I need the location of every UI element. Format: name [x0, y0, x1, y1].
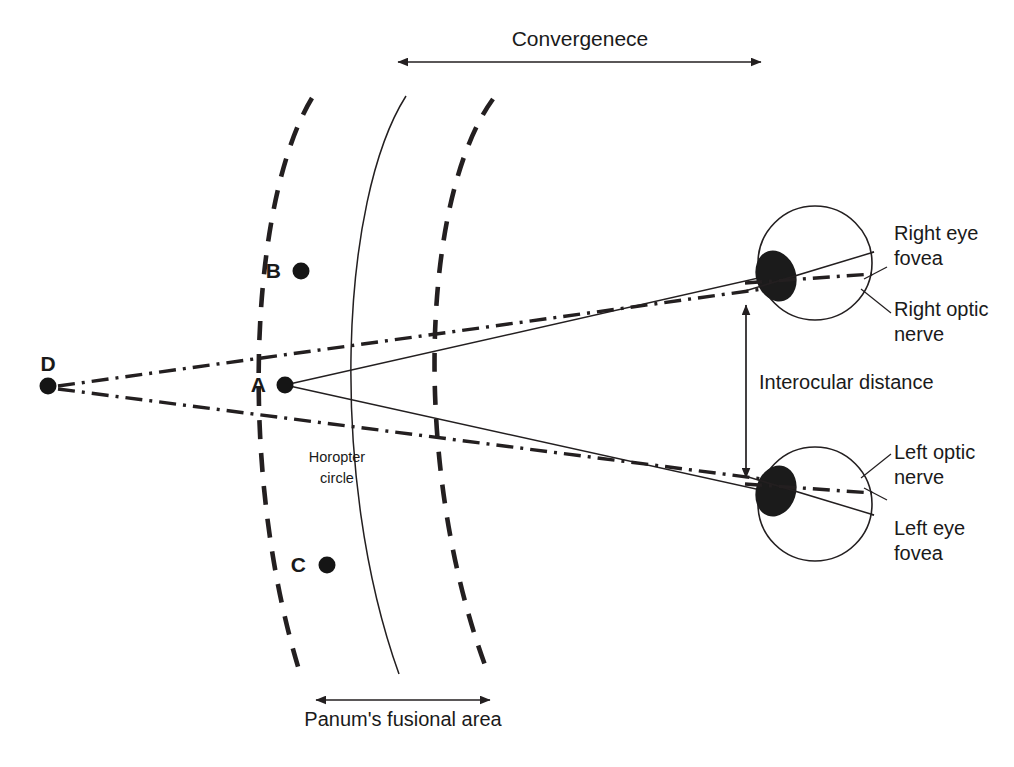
point-b-label: B	[266, 259, 281, 282]
convergence-dimension: Convergenece	[398, 27, 761, 62]
panum-dimension: Panum's fusional area	[304, 700, 502, 730]
point-a-label: A	[251, 373, 266, 396]
interocular-distance-label: Interocular distance	[759, 371, 934, 393]
left-eye-fovea-label-line2: fovea	[894, 542, 944, 564]
right-eye-fovea-label-line1: Right eye	[894, 222, 979, 244]
panum-far-boundary-arc	[435, 99, 493, 673]
eye-annotations: Right eye fovea Right optic nerve Left o…	[894, 222, 989, 564]
horopter-circle-arc	[351, 96, 406, 674]
horopter-caption-line1: Horopter	[309, 449, 366, 465]
point-d-dot	[40, 378, 57, 395]
right-optic-nerve-label-line2: nerve	[894, 323, 944, 345]
left-optic-nerve-label-line2: nerve	[894, 466, 944, 488]
d-to-right-optic-nerve-ray	[58, 274, 872, 386]
point-markers: A B C D	[40, 259, 336, 576]
left-optic-nerve-leader-line	[861, 454, 891, 478]
horopter-caption-line2: circle	[320, 470, 354, 486]
optic-nerve-rays	[58, 274, 872, 493]
stereopsis-diagram: Convergenece	[0, 0, 1014, 767]
right-optic-nerve-label-line1: Right optic	[894, 298, 989, 320]
right-eye	[749, 206, 891, 320]
panum-fusional-area-label: Panum's fusional area	[304, 708, 502, 730]
point-c-label: C	[291, 553, 306, 576]
point-b-dot	[293, 263, 310, 280]
point-c-dot	[319, 557, 336, 574]
right-optic-nerve-leader-line	[861, 289, 891, 313]
point-d-label: D	[40, 352, 55, 375]
diagram-canvas: Convergenece	[0, 0, 1014, 767]
convergence-label: Convergenece	[512, 27, 649, 50]
right-eye-fovea-label-line2: fovea	[894, 247, 944, 269]
arc-group	[259, 96, 493, 674]
left-eye-fovea-label-line1: Left eye	[894, 517, 965, 539]
left-optic-nerve-label-line1: Left optic	[894, 441, 975, 463]
left-eye	[749, 447, 891, 561]
point-a-dot	[277, 377, 294, 394]
